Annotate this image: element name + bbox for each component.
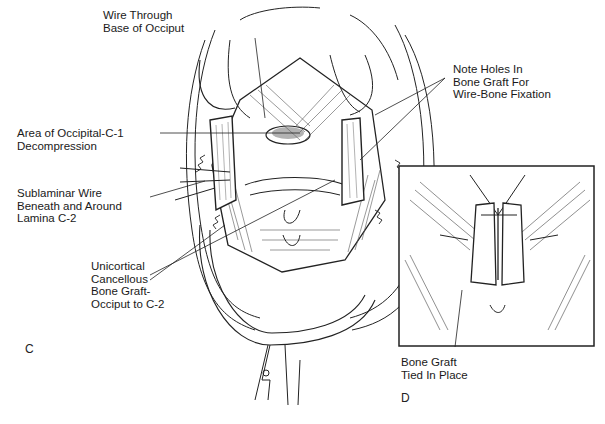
panel-d-drawing: [399, 166, 594, 347]
label-sublaminar-wire: Sublaminar Wire Beneath and Around Lamin…: [17, 187, 122, 225]
panel-letter-d: D: [401, 391, 410, 405]
label-occipital-c1-decompression: Area of Occipital-C-1 Decompression: [17, 127, 124, 152]
label-wire-through-base-of-occiput: Wire Through Base of Occiput: [103, 9, 184, 34]
surgical-illustration: Wire Through Base of Occiput Note Holes …: [0, 0, 605, 424]
label-note-holes-in-bone-graft: Note Holes In Bone Graft For Wire-Bone F…: [453, 63, 551, 101]
label-unicortical-bone-graft: Unicortical Cancellous Bone Graft- Occip…: [91, 260, 165, 310]
panel-letter-c: C: [25, 342, 34, 356]
label-bone-graft-tied-in-place: Bone Graft Tied In Place: [401, 356, 468, 381]
